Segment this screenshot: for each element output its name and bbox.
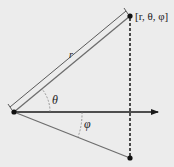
phi-arc: [78, 112, 82, 137]
dimension-tick-end: [124, 8, 128, 14]
point-label: [r, θ, φ]: [135, 10, 168, 22]
target-point: [127, 13, 132, 18]
projection-line: [14, 112, 130, 158]
radius-dimension-line: [10, 11, 126, 107]
origin-point: [11, 109, 16, 114]
dimension-tick-start: [8, 104, 12, 110]
radius-vector-line: [14, 16, 130, 112]
radius-label: r: [69, 49, 73, 60]
theta-label: θ: [52, 93, 58, 107]
projection-point: [127, 155, 132, 160]
theta-arc: [42, 89, 50, 112]
phi-label: φ: [84, 117, 91, 131]
spherical-coordinates-diagram: [r, θ, φ] r θ φ: [0, 0, 174, 167]
